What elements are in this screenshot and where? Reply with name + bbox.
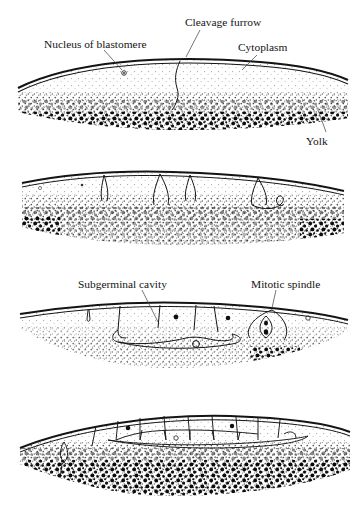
stage-3-panel: Subgerminal cavity Mitotic spindle [0, 270, 364, 390]
stage-4-panel [0, 390, 364, 510]
stage-1-illustration [0, 0, 364, 155]
stage-2-panel [0, 155, 364, 270]
stage-1-panel: Cleavage furrow Nucleus of blastomere Cy… [0, 0, 364, 155]
stage-3-illustration [0, 270, 364, 390]
stage-4-illustration [0, 390, 364, 510]
stage-2-illustration [0, 155, 364, 270]
